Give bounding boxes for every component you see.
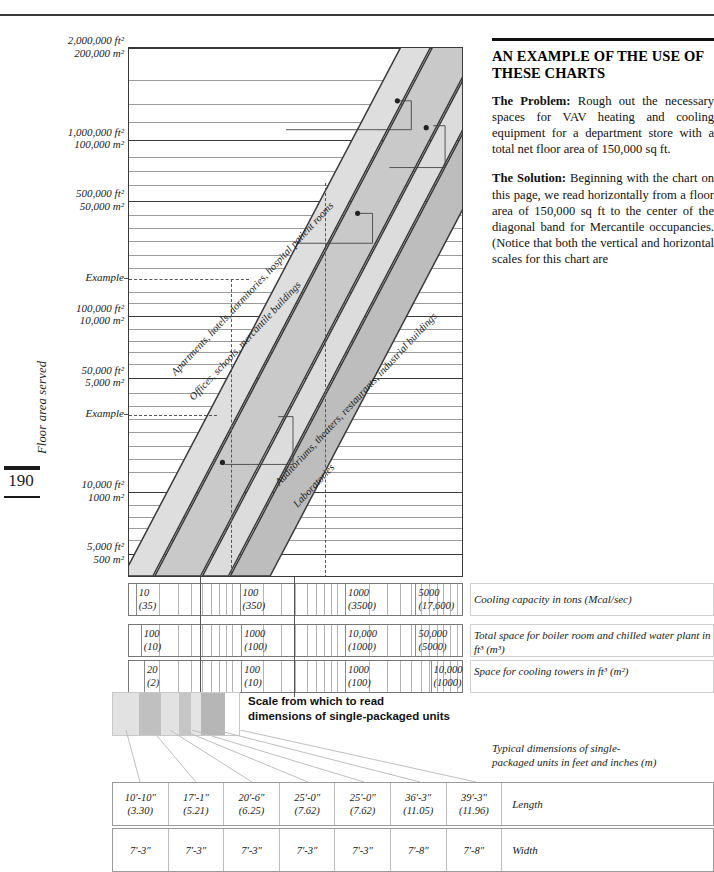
- example-vertical-guide: [294, 577, 295, 697]
- scale-strip: 100(10)1000(100)10,000(1000)50,000(5000): [128, 624, 463, 657]
- scale-decade-tick: [415, 625, 416, 656]
- table-cell: 25'-0″(7.62): [280, 783, 336, 825]
- scale-minor-tick: [232, 625, 233, 656]
- scale-tick-value: 10,000: [348, 628, 377, 639]
- cell-metric: (7.62): [294, 804, 319, 817]
- scale-tick-label: 20(2): [147, 664, 159, 689]
- cell-imperial: 7'-8″: [464, 844, 485, 857]
- y-axis-example-label: Example: [28, 271, 124, 284]
- scale-tick-value: 100: [244, 664, 260, 675]
- dimensions-table-caption: Typical dimensions of single- packaged u…: [492, 742, 714, 769]
- swatch-segment: [179, 693, 191, 735]
- scale-decade-tick: [144, 661, 145, 692]
- scale-tick-value: 100: [144, 628, 160, 639]
- scale-minor-tick: [211, 584, 212, 615]
- scale-minor-tick: [316, 584, 317, 615]
- scale-minor-tick: [219, 661, 220, 692]
- scale-tick-metric: (2): [147, 677, 159, 688]
- y-tick-imperial: 500,000 ft²: [76, 187, 124, 199]
- cell-imperial: 7'-3″: [297, 844, 318, 857]
- cell-metric: (7.62): [350, 804, 375, 817]
- cell-imperial: 36'-3″: [405, 791, 431, 804]
- scale-tick-label: 1000(100): [244, 628, 267, 653]
- cell-metric: (5.21): [183, 804, 208, 817]
- scale-tick-label: 100(10): [144, 628, 162, 653]
- table-row-label: Width: [502, 829, 713, 871]
- scale-tick-metric: (3500): [348, 600, 376, 611]
- scale-tick-metric: (5000): [418, 641, 446, 652]
- scale-minor-tick: [211, 625, 212, 656]
- sidebar-paragraph-lead: The Problem:: [492, 94, 571, 108]
- scale-caption: Total space for boiler room and chilled …: [474, 629, 714, 656]
- scale-minor-tick: [219, 625, 220, 656]
- y-tick-metric: 200,000 m²: [28, 47, 124, 60]
- scale-minor-tick: [316, 661, 317, 692]
- scale-minor-tick: [263, 661, 264, 692]
- scale-minor-tick: [411, 584, 412, 615]
- scale-tick-label: 10,000(1000): [434, 664, 463, 689]
- y-axis-tick-label: 50,000 ft²5,000 m²: [28, 364, 124, 389]
- cell-metric: (11.96): [459, 804, 489, 817]
- y-tick-imperial: 50,000 ft²: [82, 364, 124, 376]
- y-tick-metric: 500 m²: [28, 553, 124, 566]
- swatch-leader-line: [126, 730, 140, 782]
- cell-imperial: 17'-1″: [183, 791, 209, 804]
- scale-minor-tick: [178, 661, 179, 692]
- example-guide-vertical: [231, 279, 232, 577]
- table-cell: 10'-10″(3.30): [113, 783, 169, 825]
- scale-minor-tick: [331, 661, 332, 692]
- cell-imperial: 7'-3″: [186, 844, 207, 857]
- scale-tick-value: 1000: [244, 628, 265, 639]
- scale-minor-tick: [331, 584, 332, 615]
- scale-minor-tick: [411, 625, 412, 656]
- scale-caption: Space for cooling towers in ft³ (m²): [474, 665, 714, 679]
- y-tick-metric: 100,000 m²: [28, 138, 124, 151]
- y-tick-imperial: 5,000 ft²: [87, 540, 124, 552]
- y-tick-imperial: 10,000 ft²: [82, 478, 124, 490]
- scale-tick-label: 50,000(5000): [418, 628, 447, 653]
- table-cell: 7'-8″: [391, 829, 447, 871]
- scale-tick-value: 100: [243, 587, 259, 598]
- swatch-leader-line: [152, 730, 196, 782]
- scale-tick-metric: (17,600): [418, 600, 454, 611]
- scale-tick-label: 10,000(1000): [348, 628, 377, 653]
- scale-minor-tick: [337, 661, 338, 692]
- cell-imperial: 39'-3″: [461, 791, 487, 804]
- scale-minor-tick: [324, 661, 325, 692]
- table-cell: 39'-3″(11.96): [447, 783, 503, 825]
- cell-metric: (3.30): [128, 804, 153, 817]
- sidebar-paragraph-lead: The Solution:: [492, 171, 566, 185]
- scale-minor-tick: [202, 584, 203, 615]
- scale-decade-tick: [241, 625, 242, 656]
- example-data-point: [395, 98, 400, 103]
- scale-tick-value: 5000: [418, 587, 439, 598]
- scale-minor-tick: [307, 661, 308, 692]
- cell-metric: (6.25): [239, 804, 264, 817]
- swatch-leader-line: [216, 730, 420, 782]
- scale-tick-value: 1000: [348, 587, 369, 598]
- swatch-caption-line1: Scale from which to read: [248, 695, 384, 707]
- scale-tick-label: 10(35): [139, 587, 157, 612]
- swatch-segment: [201, 693, 225, 735]
- scale-decade-tick: [345, 661, 346, 692]
- scale-minor-tick: [387, 661, 388, 692]
- table-cell: 7'-3″: [335, 829, 391, 871]
- table-cell: 17'-1″(5.21): [169, 783, 225, 825]
- scale-tick-label: 5000(17,600): [418, 587, 454, 612]
- scale-decade-tick: [240, 584, 241, 615]
- scale-minor-tick: [331, 625, 332, 656]
- y-tick-metric: 5,000 m²: [28, 376, 124, 389]
- scale-tick-metric: (100): [348, 677, 371, 688]
- scale-minor-tick: [281, 661, 282, 692]
- scale-minor-tick: [316, 625, 317, 656]
- cell-imperial: 25'-0″: [294, 791, 320, 804]
- swatch-leader-lines: [100, 730, 500, 782]
- scale-minor-tick: [202, 661, 203, 692]
- swatch-segment: [113, 693, 139, 735]
- dim-caption-line2: packaged units in feet and inches (m): [492, 756, 656, 768]
- scale-minor-tick: [178, 584, 179, 615]
- scale-minor-tick: [232, 584, 233, 615]
- table-cell: 25'-0″(7.62): [335, 783, 391, 825]
- example-data-point: [220, 460, 225, 465]
- table-cell: 7'-3″: [224, 829, 280, 871]
